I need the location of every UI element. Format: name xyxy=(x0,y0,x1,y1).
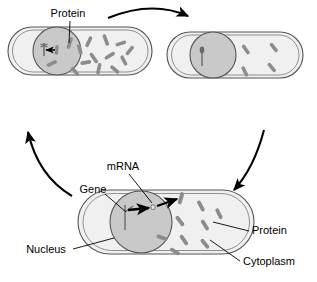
label-mrna: mRNA xyxy=(107,160,140,172)
cell-top-left xyxy=(8,27,152,76)
label-cytoplasm: Cytoplasm xyxy=(243,255,295,267)
cell-bottom xyxy=(78,190,254,256)
label-protein-top: Protein xyxy=(51,7,86,19)
arrow-right-downward xyxy=(234,130,264,190)
arrow-top-rightward xyxy=(108,8,188,18)
figure-root: Protein xyxy=(0,0,317,282)
cell-top-right xyxy=(167,32,303,78)
arrow-left-upward xyxy=(28,132,72,196)
nucleus xyxy=(110,191,172,253)
gene-expression-diagram: Protein xyxy=(0,0,317,282)
mrna-molecule xyxy=(151,205,155,209)
label-protein-right: Protein xyxy=(252,224,287,236)
label-gene: Gene xyxy=(80,183,107,195)
protein-in-nucleus-1 xyxy=(55,45,59,55)
label-nucleus: Nucleus xyxy=(26,243,66,255)
nucleus xyxy=(190,32,236,78)
